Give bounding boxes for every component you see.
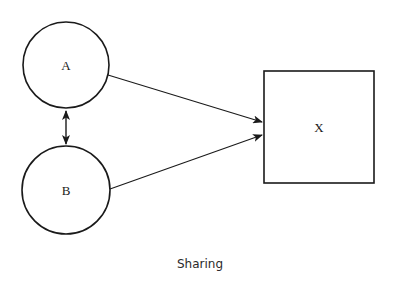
node-a-label: A: [61, 58, 71, 73]
edge-a-x-arrow: [108, 75, 262, 122]
node-x: X: [264, 71, 374, 183]
node-a: A: [23, 22, 109, 108]
diagram-svg: A B X Sharing: [0, 0, 394, 282]
node-b: B: [22, 146, 110, 234]
node-x-label: X: [314, 120, 324, 135]
node-b-label: B: [62, 183, 71, 198]
diagram-caption: Sharing: [177, 257, 223, 271]
edge-b-x-arrow: [110, 135, 262, 189]
diagram-canvas: A B X Sharing: [0, 0, 394, 282]
